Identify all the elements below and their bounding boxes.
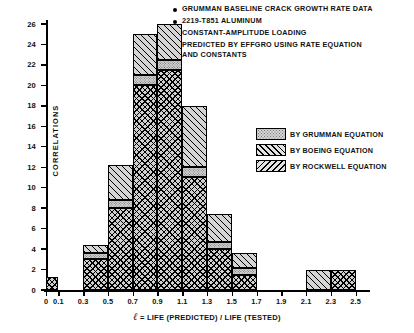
bar-segment-boeing <box>207 214 232 242</box>
x-tick-label: 1.9 <box>268 297 294 306</box>
x-tick <box>207 292 208 296</box>
bar-segment-boeing <box>108 165 133 200</box>
bar-segment-boeing <box>133 34 158 75</box>
y-tick-label: 16 <box>4 122 36 131</box>
x-axis-label-text: = LIFE (PREDICTED) / LIFE (TESTED) <box>140 313 281 322</box>
bar-segment-rockwell <box>108 208 133 290</box>
bar-segment-boeing <box>182 106 207 167</box>
x-tick-label: 0.5 <box>95 297 121 306</box>
bar-segment-boeing <box>83 245 108 253</box>
x-tick <box>83 292 84 296</box>
bar-segment-rockwell <box>157 70 182 290</box>
note-item: GRUMMAN BASELINE CRACK GROWTH RATE DATA <box>173 4 411 14</box>
bar-0.3-0.5 <box>83 245 108 290</box>
x-tick <box>281 292 282 296</box>
chart-figure: GRUMMAN BASELINE CRACK GROWTH RATE DATA … <box>0 0 414 333</box>
bar-0.7-0.9 <box>133 34 158 290</box>
y-tick-label: 10 <box>4 183 36 192</box>
bar-1.5-1.7 <box>232 253 257 290</box>
bar-segment-grumman <box>207 242 232 249</box>
x-tick <box>232 292 233 296</box>
x-tick-label: 2.5 <box>343 297 369 306</box>
plot-area: CORRELATIONS <box>46 24 368 290</box>
bar-segment-rockwell <box>207 249 232 290</box>
x-tick-label: 2.3 <box>318 297 344 306</box>
x-tick <box>331 292 332 296</box>
bar-1.1-1.3 <box>182 106 207 290</box>
bar-segment-grumman <box>83 253 108 259</box>
x-tick-label: 1.5 <box>219 297 245 306</box>
x-tick-label: 1.7 <box>244 297 270 306</box>
bullet-icon <box>173 8 177 12</box>
y-tick-label: 0 <box>4 286 36 295</box>
y-tick-label: 26 <box>4 20 36 29</box>
x-tick <box>356 292 357 296</box>
y-tick-label: 18 <box>4 101 36 110</box>
bar-segment-rockwell <box>331 270 356 290</box>
y-tick-label: 2 <box>4 265 36 274</box>
bar-segment-rockwell <box>83 259 108 290</box>
x-tick <box>58 292 59 296</box>
y-tick-label: 14 <box>4 142 36 151</box>
bar-segment-rockwell <box>133 85 158 290</box>
x-tick <box>133 292 134 296</box>
note-text: GRUMMAN BASELINE CRACK GROWTH RATE DATA <box>182 4 373 14</box>
bar-segment-grumman <box>133 75 158 85</box>
bar-segment-grumman <box>157 60 182 70</box>
bar-segment-grumman <box>182 167 207 177</box>
x-tick <box>182 292 183 296</box>
bar-0-0.1 <box>46 277 58 290</box>
bar-0.9-1.1 <box>157 24 182 290</box>
bar-segment-boeing <box>157 24 182 60</box>
x-tick <box>46 292 47 296</box>
y-tick-label: 8 <box>4 204 36 213</box>
y-tick-label: 12 <box>4 163 36 172</box>
bar-0.5-0.7 <box>108 165 133 290</box>
x-tick <box>306 292 307 296</box>
bar-segment-grumman <box>232 268 257 275</box>
y-tick-label: 22 <box>4 60 36 69</box>
x-tick <box>157 292 158 296</box>
bar-2.3-2.5 <box>331 270 356 290</box>
x-tick-label: 0.1 <box>45 297 71 306</box>
bar-1.3-1.5 <box>207 214 232 290</box>
x-tick-label: 1.1 <box>169 297 195 306</box>
bar-segment-grumman <box>108 200 133 208</box>
bar-segment-rockwell <box>46 277 58 290</box>
y-tick-label: 6 <box>4 224 36 233</box>
x-tick-label: 0.3 <box>70 297 96 306</box>
bar-segment-boeing <box>232 253 257 267</box>
y-tick-label: 4 <box>4 245 36 254</box>
x-tick-label: 0.9 <box>144 297 170 306</box>
bar-segment-boeing <box>306 270 331 290</box>
x-tick <box>257 292 258 296</box>
x-tick <box>108 292 109 296</box>
bar-2.1-2.3 <box>306 270 331 290</box>
bar-segment-rockwell <box>182 177 207 290</box>
bar-segment-rockwell <box>232 275 257 290</box>
x-axis-label: ℓ = LIFE (PREDICTED) / LIFE (TESTED) <box>46 311 368 322</box>
x-axis-label-symbol: ℓ <box>133 311 137 322</box>
x-tick-label: 0.7 <box>120 297 146 306</box>
y-axis-label: CORRELATIONS <box>51 105 60 177</box>
x-tick-label: 1.3 <box>194 297 220 306</box>
x-tick-label: 2.1 <box>293 297 319 306</box>
y-tick-label: 20 <box>4 81 36 90</box>
y-tick-label: 24 <box>4 40 36 49</box>
